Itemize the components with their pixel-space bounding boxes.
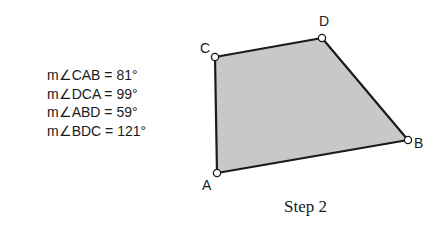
vertex-a-label: A [202,177,212,193]
vertex-b-point [404,136,411,143]
vertex-b-label: B [414,135,423,151]
quadrilateral-diagram: C D B A Step 2 [0,0,448,233]
vertex-a-point [213,169,220,176]
step-caption: Step 2 [284,197,327,216]
quadrilateral-acdb [215,38,408,173]
vertex-d-label: D [319,13,329,29]
vertex-d-point [318,34,325,41]
vertex-c-point [211,53,218,60]
vertex-c-label: C [200,40,210,56]
